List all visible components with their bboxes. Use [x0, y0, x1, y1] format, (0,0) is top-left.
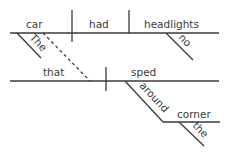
word-preposition: around: [138, 79, 172, 114]
word-verb: had: [89, 18, 109, 30]
word-object: headlights: [144, 18, 199, 30]
word-subject-modifier: The: [27, 30, 50, 53]
sentence-diagram: car had headlights The no that sped arou…: [0, 0, 226, 154]
word-subject: car: [26, 18, 43, 30]
word-rel-verb: sped: [131, 66, 156, 78]
word-rel-subject: that: [43, 66, 64, 78]
word-prep-object: corner: [177, 108, 211, 120]
